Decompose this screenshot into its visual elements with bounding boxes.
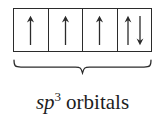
orbital-box-4 (118, 9, 152, 51)
caption-superscript: 3 (55, 89, 62, 104)
electron-arrows-3 (83, 9, 117, 51)
caption-word: orbitals (66, 90, 129, 114)
orbital-box-row (13, 8, 152, 52)
underbrace (12, 56, 153, 78)
electron-arrows-4 (118, 9, 152, 51)
orbital-box-1 (14, 9, 49, 51)
spin-up-arrow-icon (94, 15, 105, 46)
electron-arrows-1 (14, 9, 48, 51)
spin-up-arrow-icon (60, 15, 71, 46)
orbital-box-2 (49, 9, 84, 51)
electron-arrows-2 (49, 9, 83, 51)
caption-symbol: sp (36, 90, 55, 114)
orbital-diagram-figure: sp3orbitals (0, 0, 165, 131)
spin-up-arrow-icon (123, 15, 133, 46)
spin-up-arrow-icon (25, 15, 36, 46)
caption: sp3orbitals (0, 92, 165, 113)
spin-down-arrow-icon (135, 15, 145, 46)
orbital-box-3 (83, 9, 118, 51)
